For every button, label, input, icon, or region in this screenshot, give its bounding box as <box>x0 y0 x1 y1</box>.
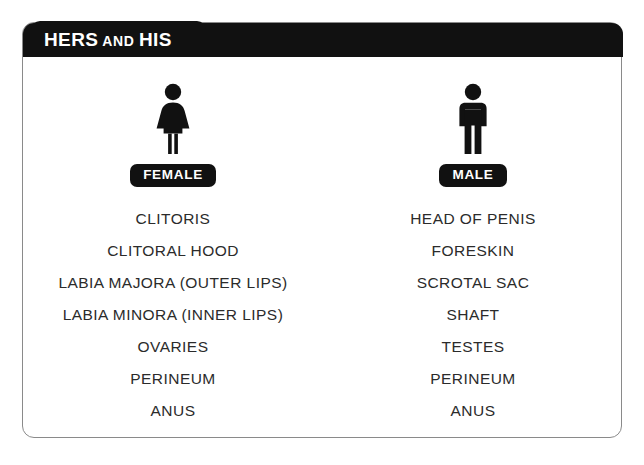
term-item: PERINEUM <box>323 371 623 387</box>
term-item: HEAD OF PENIS <box>323 211 623 227</box>
female-pictogram-icon <box>145 83 201 155</box>
term-item: LABIA MINORA (INNER LIPS) <box>23 307 323 323</box>
term-item: ANUS <box>323 403 623 419</box>
term-item: PERINEUM <box>23 371 323 387</box>
anatomy-card: HERS AND HIS FEMALE CLITORIS CLITORAL HO… <box>22 22 622 438</box>
title-and: AND <box>98 33 139 49</box>
page-root: HERS AND HIS FEMALE CLITORIS CLITORAL HO… <box>0 0 644 465</box>
male-pictogram-icon <box>445 83 501 155</box>
column-female: FEMALE CLITORIS CLITORAL HOOD LABIA MAJO… <box>23 57 323 437</box>
title-hers: HERS <box>44 29 98 50</box>
term-item: SCROTAL SAC <box>323 275 623 291</box>
term-item: ANUS <box>23 403 323 419</box>
page-title: HERS AND HIS <box>44 30 172 49</box>
term-list-male: HEAD OF PENIS FORESKIN SCROTAL SAC SHAFT… <box>323 211 623 419</box>
term-item: FORESKIN <box>323 243 623 259</box>
term-item: SHAFT <box>323 307 623 323</box>
header-tab: HERS AND HIS <box>31 21 206 57</box>
badge-male: MALE <box>439 164 506 187</box>
title-his: HIS <box>139 29 172 50</box>
term-item: TESTES <box>323 339 623 355</box>
term-item: OVARIES <box>23 339 323 355</box>
term-item: CLITORIS <box>23 211 323 227</box>
columns-container: FEMALE CLITORIS CLITORAL HOOD LABIA MAJO… <box>23 57 623 437</box>
term-item: LABIA MAJORA (OUTER LIPS) <box>23 275 323 291</box>
badge-female: FEMALE <box>130 164 216 187</box>
term-item: CLITORAL HOOD <box>23 243 323 259</box>
column-male: MALE HEAD OF PENIS FORESKIN SCROTAL SAC … <box>323 57 623 437</box>
term-list-female: CLITORIS CLITORAL HOOD LABIA MAJORA (OUT… <box>23 211 323 419</box>
